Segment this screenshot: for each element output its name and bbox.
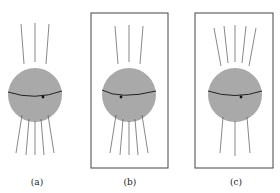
sphere [8, 68, 62, 122]
charge-dot [120, 96, 123, 99]
diagram-canvas: (a) (b) [0, 0, 280, 193]
field-lines-above [115, 25, 143, 64]
field-lines-below [16, 115, 54, 155]
field-lines-below [220, 117, 250, 156]
panel-b: (b) [91, 13, 168, 187]
panel-label-c: (c) [230, 177, 242, 187]
field-lines-below [110, 115, 148, 155]
panel-a: (a) [8, 23, 62, 187]
panel-label-a: (a) [31, 177, 43, 187]
charge-dot [240, 96, 243, 99]
panel-label-b: (b) [124, 177, 137, 187]
charge-dot [42, 96, 45, 99]
panel-c: (c) [195, 13, 273, 187]
field-lines-above [21, 23, 49, 64]
field-lines-above [214, 25, 256, 66]
